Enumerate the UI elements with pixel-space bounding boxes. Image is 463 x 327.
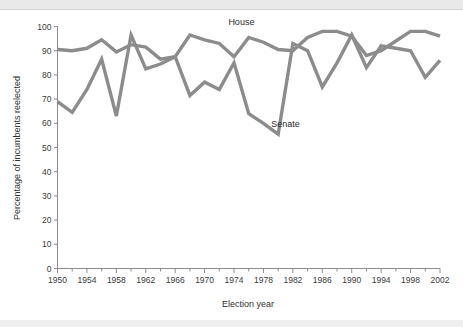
line-chart-canvas: 0102030405060708090100 19501954195819621… bbox=[0, 0, 463, 327]
chart-series-group bbox=[58, 31, 441, 134]
y-axis-tick-labels: 0102030405060708090100 bbox=[37, 22, 51, 274]
y-axis-title: Percentage of incumbents reelected bbox=[12, 76, 22, 220]
x-tick-label-1990: 1990 bbox=[342, 275, 361, 285]
x-axis-ticks bbox=[58, 269, 441, 274]
x-tick-label-1966: 1966 bbox=[166, 275, 185, 285]
y-tick-label-10: 10 bbox=[42, 239, 52, 249]
y-tick-label-90: 90 bbox=[42, 46, 52, 56]
y-tick-label-100: 100 bbox=[37, 22, 51, 32]
y-tick-label-20: 20 bbox=[42, 215, 52, 225]
y-tick-label-40: 40 bbox=[42, 167, 52, 177]
x-tick-label-1986: 1986 bbox=[313, 275, 332, 285]
y-tick-label-60: 60 bbox=[42, 118, 52, 128]
chart-figure: 0102030405060708090100 19501954195819621… bbox=[0, 0, 463, 327]
x-tick-label-1958: 1958 bbox=[107, 275, 126, 285]
x-axis-tick-labels: 1950195419581962196619701974197819821986… bbox=[48, 275, 450, 285]
x-tick-label-1974: 1974 bbox=[225, 275, 244, 285]
y-tick-label-0: 0 bbox=[47, 264, 52, 274]
y-tick-label-80: 80 bbox=[42, 70, 52, 80]
x-tick-label-1970: 1970 bbox=[195, 275, 214, 285]
series-label-senate: Senate bbox=[271, 119, 300, 129]
x-tick-label-1954: 1954 bbox=[77, 275, 96, 285]
y-tick-label-70: 70 bbox=[42, 94, 52, 104]
x-tick-label-2002: 2002 bbox=[431, 275, 450, 285]
chart-axes bbox=[58, 26, 441, 269]
y-tick-label-50: 50 bbox=[42, 143, 52, 153]
series-label-house: House bbox=[228, 17, 254, 27]
x-tick-label-1978: 1978 bbox=[254, 275, 273, 285]
x-axis-title: Election year bbox=[222, 299, 274, 309]
x-tick-label-1998: 1998 bbox=[401, 275, 420, 285]
x-tick-label-1994: 1994 bbox=[372, 275, 391, 285]
x-tick-label-1982: 1982 bbox=[283, 275, 302, 285]
x-tick-label-1950: 1950 bbox=[48, 275, 67, 285]
y-axis-ticks bbox=[54, 27, 58, 269]
y-tick-label-30: 30 bbox=[42, 191, 52, 201]
x-tick-label-1962: 1962 bbox=[136, 275, 155, 285]
